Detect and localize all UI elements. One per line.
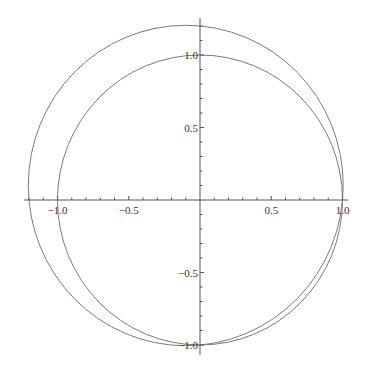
curve-outer-circle — [28, 25, 343, 345]
y-tick-label: 0.5 — [184, 122, 198, 134]
curves — [28, 25, 343, 345]
x-tick-label: −1.0 — [48, 204, 68, 216]
y-tick-label: 1.0 — [184, 49, 198, 61]
y-tick-label: −1.0 — [178, 339, 198, 351]
x-tick-label: 1.0 — [336, 204, 350, 216]
chart-plot: −1.0−0.50.51.01.00.5−0.5−1.0 — [0, 0, 371, 373]
tick-marks — [29, 26, 343, 345]
y-tick-label: −0.5 — [178, 267, 198, 279]
x-tick-label: −0.5 — [119, 204, 139, 216]
x-tick-label: 0.5 — [264, 204, 278, 216]
